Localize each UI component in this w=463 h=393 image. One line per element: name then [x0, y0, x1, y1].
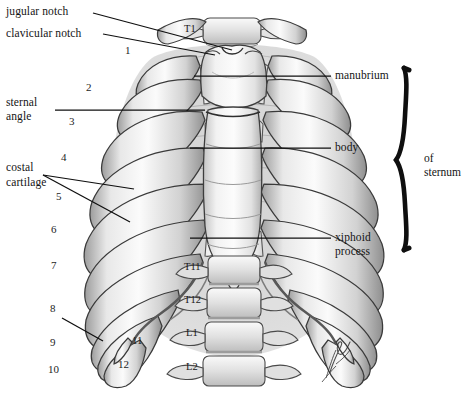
label-xiphoid-process-line2: process	[335, 245, 370, 259]
sternum-brace	[396, 68, 409, 250]
rib-number-4: 4	[61, 151, 67, 163]
label-clavicular-notch: clavicular notch	[6, 27, 81, 41]
figure-canvas: jugular notch clavicular notch sternal a…	[0, 0, 463, 393]
label-body: body	[335, 141, 358, 155]
rib-number-2: 2	[86, 81, 92, 93]
vertebra-label-t1: T1	[184, 23, 196, 34]
rib-number-8: 8	[50, 302, 56, 314]
vertebra-label-t12: T12	[184, 294, 201, 305]
rib-number-3: 3	[69, 115, 75, 127]
vertebra-label-l1: L1	[186, 327, 198, 338]
sternum-body	[203, 107, 261, 269]
rib-number-6: 6	[51, 223, 57, 235]
vertebra-label-l2: L2	[186, 361, 198, 372]
rib-number-11: 11	[132, 334, 143, 346]
label-brace-sternum: sternum	[424, 166, 461, 180]
rib-number-10: 10	[48, 363, 59, 375]
vertebra-label-t11: T11	[184, 261, 201, 272]
label-manubrium: manubrium	[335, 69, 389, 83]
label-sternal-angle-line1: sternal	[6, 96, 37, 110]
rib-number-9: 9	[50, 336, 56, 348]
rib-number-12: 12	[118, 358, 129, 370]
label-costal-cartilage-line2: cartilage	[6, 176, 46, 190]
label-brace-of: of	[424, 152, 434, 166]
label-sternal-angle-line2: angle	[6, 110, 31, 124]
label-costal-cartilage-line1: costal	[6, 161, 33, 175]
rib-number-7: 7	[51, 259, 57, 271]
label-xiphoid-process-line1: xiphoid	[335, 231, 371, 245]
rib-number-1: 1	[125, 44, 131, 56]
label-jugular-notch: jugular notch	[6, 5, 68, 19]
rib-number-5: 5	[56, 190, 62, 202]
thoracic-cage-illustration	[0, 0, 463, 393]
